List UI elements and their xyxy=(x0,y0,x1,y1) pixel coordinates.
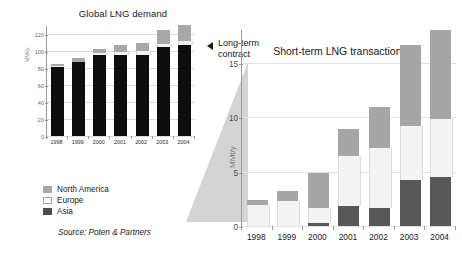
legend-item-label: North America xyxy=(57,185,109,194)
right-chart-y-tick-label: 15 xyxy=(229,59,238,68)
right-chart-segment-europe xyxy=(430,119,453,177)
left-chart-panel: Global LNG demand 020406080100120 199819… xyxy=(0,0,215,268)
right-chart-segment-asia xyxy=(430,177,451,226)
left-chart-bar xyxy=(157,30,170,136)
left-chart-segment-north-america xyxy=(178,25,191,41)
right-chart-y-tick-label: 0 xyxy=(233,223,238,232)
right-chart-x-label: 2002 xyxy=(365,232,393,246)
right-chart-segment-north-america xyxy=(308,173,329,208)
right-chart-bar xyxy=(247,200,268,226)
right-chart-x-label: 2003 xyxy=(395,232,423,246)
right-chart-x-tick xyxy=(241,226,242,230)
left-chart-segment-asia xyxy=(157,47,170,136)
left-chart-y-tick-label: 80 xyxy=(38,66,44,72)
right-chart-segment-asia xyxy=(369,208,390,227)
chart-legend: North AmericaEuropeAsia xyxy=(43,184,109,217)
right-chart-bar xyxy=(338,129,359,226)
right-chart-y-axis-label: MMt/y xyxy=(228,146,237,168)
right-chart-segment-asia xyxy=(338,206,359,226)
left-chart-segment-north-america xyxy=(157,30,170,44)
right-chart-x-tick xyxy=(302,226,303,230)
right-chart-x-tick xyxy=(394,226,395,230)
right-chart-x-tick xyxy=(333,226,334,230)
source-note: Source: Poten & Partners xyxy=(58,228,151,237)
left-chart-y-tick-label: 20 xyxy=(38,117,44,123)
left-chart-segment-asia xyxy=(136,55,149,136)
source-value: Poten & Partners xyxy=(89,228,151,237)
left-chart-x-label: 2003 xyxy=(152,139,172,151)
right-chart-bar xyxy=(369,107,390,226)
right-chart-segment-asia xyxy=(400,180,421,226)
left-chart-y-axis-label: MMt/y xyxy=(24,48,30,62)
right-chart-bar xyxy=(430,30,451,226)
right-chart-bar xyxy=(400,45,421,226)
right-chart-segment-north-america xyxy=(338,129,359,156)
right-chart-segment-north-america xyxy=(277,191,298,201)
left-chart-x-label: 2001 xyxy=(110,139,130,151)
left-chart-x-label: 1998 xyxy=(47,139,67,151)
left-chart-bar xyxy=(93,49,106,136)
source-label: Source: xyxy=(58,228,86,237)
right-chart-x-tick xyxy=(455,226,456,230)
left-chart-segment-north-america xyxy=(136,43,149,51)
legend-item-label: Europe xyxy=(57,196,83,205)
left-chart-bar xyxy=(136,43,149,136)
right-chart-x-label: 2001 xyxy=(334,232,362,246)
left-chart-y-tick-label: 60 xyxy=(38,83,44,89)
right-chart-x-label: 1998 xyxy=(242,232,270,246)
right-chart-segment-europe xyxy=(247,205,270,226)
left-chart-segment-asia xyxy=(72,62,85,136)
left-chart-x-labels: 1998199920002001200220032004 xyxy=(46,139,194,151)
right-chart-segment-north-america xyxy=(400,45,421,126)
right-chart-x-tick xyxy=(363,226,364,230)
right-chart-x-tick xyxy=(424,226,425,230)
right-chart-segment-europe xyxy=(277,201,300,226)
right-chart-x-tick xyxy=(272,226,273,230)
right-chart-segment-north-america xyxy=(369,107,390,147)
legend-swatch-icon xyxy=(43,186,52,193)
left-chart-x-label: 2002 xyxy=(131,139,151,151)
right-chart-segment-europe xyxy=(369,148,392,208)
right-chart-segment-europe xyxy=(400,126,423,180)
right-chart-y-tick-label: 5 xyxy=(233,168,238,177)
left-chart-x-label: 2000 xyxy=(89,139,109,151)
right-chart-x-label: 1999 xyxy=(273,232,301,246)
legend-item: Europe xyxy=(43,195,109,206)
left-chart-y-tick-label: 120 xyxy=(35,32,44,38)
left-chart-segment-north-america xyxy=(114,45,127,52)
legend-item: North America xyxy=(43,184,109,195)
left-chart-segment-asia xyxy=(93,55,106,136)
right-chart-bar xyxy=(308,173,329,226)
left-triangle-icon xyxy=(207,42,213,50)
left-chart-bar xyxy=(114,45,127,136)
right-chart-segment-europe xyxy=(338,156,361,206)
right-chart-x-label: 2004 xyxy=(426,232,454,246)
left-chart-bar xyxy=(51,64,64,136)
right-chart-plot-area: 051015 xyxy=(241,30,456,227)
left-chart-plot-area: 020406080100120 xyxy=(46,26,195,137)
right-chart-x-label: 2000 xyxy=(303,232,331,246)
right-chart-x-ticks xyxy=(241,226,455,230)
legend-item-label: Asia xyxy=(57,207,73,216)
right-chart-bars xyxy=(242,30,456,226)
left-chart-title: Global LNG demand xyxy=(38,8,208,19)
left-chart-y-tick-label: 100 xyxy=(35,49,44,55)
right-chart-y-tick-label: 10 xyxy=(229,114,238,123)
left-chart-bars xyxy=(47,26,195,136)
right-chart-segment-north-america xyxy=(430,30,451,119)
right-chart-segment-europe xyxy=(308,208,331,223)
left-chart-segment-asia xyxy=(114,55,127,136)
legend-swatch-icon xyxy=(43,208,52,215)
legend-item: Asia xyxy=(43,206,109,217)
left-chart-y-tick-label: 40 xyxy=(38,100,44,106)
legend-swatch-icon xyxy=(43,197,52,204)
left-chart-x-label: 1999 xyxy=(68,139,88,151)
lng-charts-figure: Global LNG demand 020406080100120 199819… xyxy=(0,0,462,268)
left-chart-bar xyxy=(72,58,85,136)
left-chart-segment-asia xyxy=(51,67,64,136)
right-chart-bar xyxy=(277,191,298,226)
right-chart-x-labels: 1998199920002001200220032004 xyxy=(241,232,455,246)
